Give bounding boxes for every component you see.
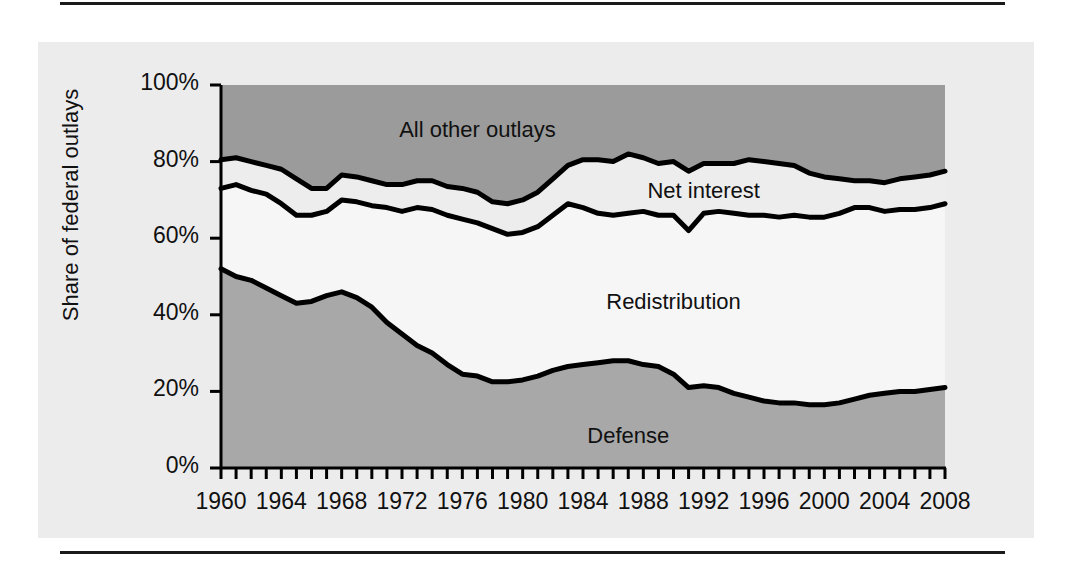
series-label-redistribution: Redistribution xyxy=(606,289,741,315)
figure-root: Share of federal outlays 0%20%40%60%80%1… xyxy=(0,0,1065,568)
series-label-defense: Defense xyxy=(587,423,669,449)
bottom-divider-rule xyxy=(60,551,1005,554)
series-label-all-other-outlays: All other outlays xyxy=(399,117,556,143)
chart-panel: Share of federal outlays 0%20%40%60%80%1… xyxy=(38,42,1034,538)
series-label-net-interest: Net interest xyxy=(647,178,760,204)
chart-figure: Share of federal outlays 0%20%40%60%80%1… xyxy=(38,42,1034,538)
top-divider-rule xyxy=(60,2,1005,5)
